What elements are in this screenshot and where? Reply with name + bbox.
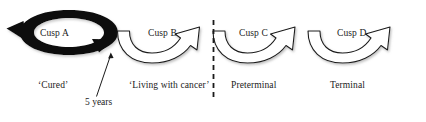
cusp-c-label: Cusp C [239, 28, 268, 38]
cusp-a-left-arrowhead [7, 21, 28, 42]
figure-canvas: Cusp A Cusp B Cusp C Cusp D ‘Cured’ ‘Liv… [0, 0, 426, 122]
annotation-five-years: 5 years [85, 97, 112, 107]
phase-label-preterminal: Preterminal [231, 80, 276, 90]
five-years-leader-line [97, 53, 114, 97]
five-years-leader-arrowhead [108, 53, 114, 59]
cusp-a-label: Cusp A [40, 28, 69, 38]
cusp-b-label: Cusp B [148, 28, 177, 38]
phase-label-terminal: Terminal [330, 80, 365, 90]
phase-label-cured: ‘Cured’ [38, 80, 68, 90]
phase-label-living-with-cancer: ‘Living with cancer’ [129, 80, 209, 90]
cusp-d-label: Cusp D [337, 28, 366, 38]
cusp-trajectory-diagram [0, 0, 426, 122]
